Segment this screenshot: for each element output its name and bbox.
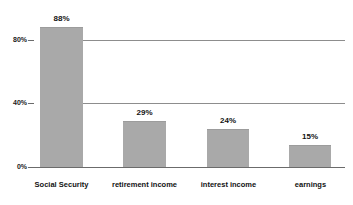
category-label-social-security: Social Security [19,180,104,189]
y-axis-labels: 80% 40% 0% [0,0,27,205]
ytick-label-40: 40% [0,99,27,107]
ytick-mark-80 [28,40,34,41]
category-label-earnings: earnings [268,180,353,189]
bar-chart: 80% 40% 0% 88% 29% 24% 15% Social Securi… [0,0,353,205]
bar-value-retirement-income: 29% [123,108,166,117]
ytick-label-0: 0% [0,163,27,171]
gridline-40 [82,103,345,104]
bar-social-security [40,27,83,167]
bar-value-social-security: 88% [40,14,83,23]
bar-retirement-income [123,121,166,167]
category-label-retirement-income: retirement income [102,180,187,189]
bar-interest-income [207,129,249,167]
x-axis-line [34,167,345,168]
bar-earnings [289,145,331,167]
ytick-label-80: 80% [0,36,27,44]
gridline-80 [82,40,345,41]
category-label-interest-income: interest income [186,180,271,189]
ytick-mark-40 [28,103,34,104]
plot-area: 80% 40% 0% 88% 29% 24% 15% Social Securi… [0,0,353,205]
bar-value-earnings: 15% [289,132,331,141]
bar-value-interest-income: 24% [207,116,249,125]
